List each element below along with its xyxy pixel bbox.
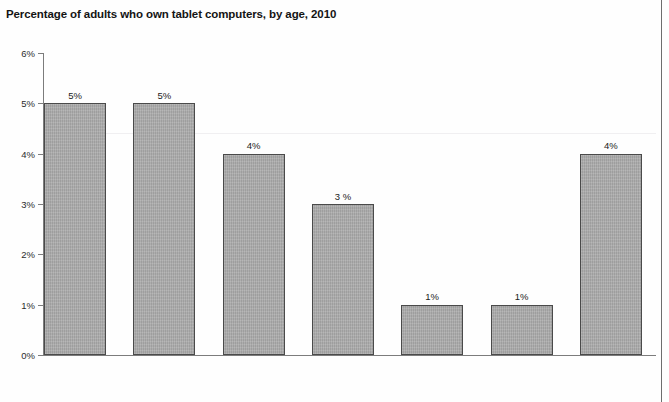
bar-younger-boomers[interactable] [223,154,285,355]
bar-value-younger-boomers: 4% [223,140,285,151]
bar-value-all-adults: 4% [580,140,642,151]
bar-older-boomers[interactable] [312,204,374,355]
y-tick-label-6: 6% [21,48,35,59]
y-tick-label-0: 0% [21,350,35,361]
bar-value-millennials: 5% [44,90,106,101]
y-tick-label-3: 3% [21,199,35,210]
bar-value-older-boomers: 3 % [312,191,374,202]
y-tick-label-4: 4% [21,148,35,159]
bar-silent-gen[interactable] [401,305,463,355]
bar-value-silent-gen: 1% [401,291,463,302]
bar-gen-x[interactable] [133,103,195,355]
x-axis-line [43,355,656,356]
bar-value-gen-x: 5% [133,90,195,101]
chart-figure: Percentage of adults who own tablet comp… [0,0,669,402]
y-tick-label-1: 1% [21,299,35,310]
chart-title: Percentage of adults who own tablet comp… [6,8,336,20]
plot-area: 0% 1% 2% 3% 4% 5% 6% 5% [44,53,656,355]
y-tick-label-5: 5% [21,98,35,109]
page-edge-rule [661,0,662,402]
y-tick-label-2: 2% [21,249,35,260]
bar-value-gi-gen: 1% [491,291,553,302]
bar-all-adults[interactable] [580,154,642,355]
bar-millennials[interactable] [44,103,106,355]
bar-gi-gen[interactable] [491,305,553,355]
